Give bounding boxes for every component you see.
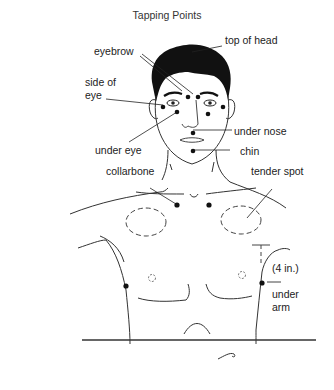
right-eyebrow [200,93,218,96]
point-under-arm-left [123,283,128,288]
point-eyebrow-right [196,95,201,100]
point-under-nose [191,131,196,136]
left-arm [78,240,130,344]
point-under-eye-left [175,110,180,115]
neck-right [216,150,230,182]
label-under-arm-line2: arm [272,301,290,313]
label-side-of-eye-line1: side of [85,76,116,88]
point-collarbone-right [206,202,211,207]
right-shoulder [230,182,286,208]
label-under-eye: under eye [95,144,142,156]
point-under-arm-right [259,280,264,285]
point-chin [191,149,196,154]
right-pec [206,284,252,299]
label-chin: chin [240,145,259,157]
label-four-inches: (4 in.) [272,262,299,274]
left-nipple [149,275,156,282]
point-side-of-eye-right [221,105,226,110]
point-collarbone-left [174,202,179,207]
label-side-of-eye-line2: eye [85,89,102,101]
label-under-arm-line1: under [272,288,299,300]
label-top-of-head: top of head [225,34,278,46]
body-illustration [0,0,334,390]
point-under-eye-right [206,112,211,117]
leader-collarbone [150,188,176,204]
abdomen-arch [184,324,210,335]
right-tender-spot-area [221,206,261,234]
tapping-points-diagram: Tapping Points [0,0,334,390]
left-pec [138,284,189,301]
left-eyebrow [164,93,182,96]
mouth [180,138,204,143]
left-shoulder [70,188,168,214]
point-side-of-eye-left [161,105,166,110]
nose [182,100,198,127]
label-tender-spot: tender spot [251,165,304,177]
right-ear [226,100,235,119]
right-nipple [239,272,246,279]
label-under-nose: under nose [234,125,287,137]
hair [152,44,231,102]
neck-left [162,150,168,180]
left-tender-spot-area [126,208,166,236]
right-collarbone [206,188,256,194]
left-ear [149,100,158,119]
label-collarbone: collarbone [106,165,154,177]
label-eyebrow: eyebrow [94,45,134,57]
signature-mark [218,353,235,359]
point-eyebrow-left [186,95,191,100]
